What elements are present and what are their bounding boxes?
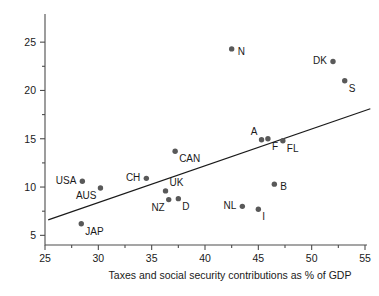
y-axis-tick-label: 10 [24, 181, 36, 193]
data-point-N [229, 46, 234, 51]
x-axis-tick-label: 35 [146, 252, 158, 264]
data-point-label-DK: DK [313, 55, 327, 66]
data-point-label-JAP: JAP [85, 226, 104, 237]
data-point-F [265, 136, 270, 141]
data-point-label-FL: FL [287, 143, 299, 154]
data-point-label-NL: NL [224, 200, 237, 211]
data-point-label-D: D [182, 201, 189, 212]
data-point-UK [163, 188, 168, 193]
data-point-label-CH: CH [126, 172, 140, 183]
scatter-chart: 25303540455055510152025USAAUSJAPCHCANUKN… [0, 0, 379, 296]
data-point-label-UK: UK [170, 177, 184, 188]
data-point-label-N: N [238, 46, 245, 57]
x-axis-tick-label: 40 [199, 252, 211, 264]
data-point-JAP [79, 221, 84, 226]
y-axis-tick-label: 20 [24, 84, 36, 96]
data-point-label-S: S [349, 83, 356, 94]
x-axis-tick-label: 25 [39, 252, 51, 264]
y-axis-tick-label: 5 [30, 229, 36, 241]
x-axis-tick-label: 30 [92, 252, 104, 264]
data-point-label-USA: USA [56, 175, 77, 186]
y-axis-tick-label: 15 [24, 133, 36, 145]
x-axis-title: Taxes and social security contributions … [109, 269, 352, 281]
data-point-S [342, 78, 347, 83]
chart-canvas: 25303540455055510152025USAAUSJAPCHCANUKN… [0, 0, 379, 296]
plot-axes [45, 14, 367, 245]
data-point-AUS [98, 185, 103, 190]
data-point-label-CAN: CAN [179, 153, 200, 164]
data-point-NZ [166, 197, 171, 202]
data-point-NL [240, 204, 245, 209]
x-axis-tick-label: 55 [359, 252, 371, 264]
data-point-label-NZ: NZ [151, 202, 164, 213]
data-point-CH [144, 176, 149, 181]
data-point-label-I: I [262, 211, 265, 222]
data-point-A [259, 137, 264, 142]
data-point-label-AUS: AUS [76, 190, 97, 201]
trend-line [48, 109, 370, 220]
x-axis-tick-label: 50 [306, 252, 318, 264]
data-point-FL [280, 138, 285, 143]
data-point-DK [330, 59, 335, 64]
data-point-B [272, 181, 277, 186]
data-point-I [256, 207, 261, 212]
data-point-label-A: A [251, 126, 258, 137]
data-point-CAN [172, 149, 177, 154]
x-axis-tick-label: 45 [252, 252, 264, 264]
y-axis-tick-label: 25 [24, 36, 36, 48]
data-point-label-B: B [280, 181, 287, 192]
data-point-label-F: F [272, 141, 278, 152]
data-point-USA [80, 179, 85, 184]
data-point-D [176, 196, 181, 201]
